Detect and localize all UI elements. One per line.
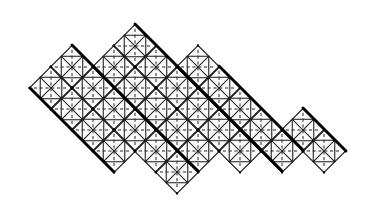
figure-container [0,0,369,205]
lattice-node [175,150,177,152]
lattice-node [259,150,261,152]
lattice-node [196,129,198,131]
lattice-node [239,86,241,88]
lattice-node [28,87,30,89]
lattice-node [217,150,219,152]
lattice-node [323,171,325,173]
lattice-node [280,129,282,131]
lattice-node [91,108,93,110]
lattice-node [281,171,283,173]
lattice-node [70,87,72,89]
lattice-node [133,108,135,110]
lattice-node [49,66,51,68]
lattice-node [260,107,262,109]
lattice-node [176,192,178,194]
lattice-node [197,171,199,173]
lattice-node [155,44,157,46]
lattice-node [175,66,177,68]
lattice-node [238,129,240,131]
lattice-node [217,108,219,110]
lattice-node [91,150,93,152]
lattice-node [239,171,241,173]
lattice-node [113,171,115,173]
lattice-node [175,108,177,110]
lattice-node [301,150,303,152]
lattice-node [196,87,198,89]
lattice-node [197,44,199,46]
lattice-node [323,128,325,130]
lattice-node [344,150,346,152]
lattice-node [112,45,114,47]
lattice-diagram-svg [0,0,369,205]
lattice-node [154,171,156,173]
lattice-node [154,87,156,89]
lattice-node [71,44,73,46]
lattice-node [302,107,304,109]
lattice-node [112,87,114,89]
lattice-node [49,108,51,110]
lattice-node [91,66,93,68]
lattice-node [134,23,136,25]
lattice-node [112,129,114,131]
lattice-node [218,65,220,67]
lattice-node [70,129,72,131]
lattice-node [133,66,135,68]
lattice-node [154,129,156,131]
lattice-node [133,150,135,152]
